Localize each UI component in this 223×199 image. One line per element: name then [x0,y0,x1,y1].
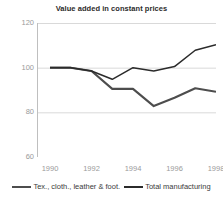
chart-container: Value added in constant prices 608010012… [0,0,223,199]
x-tick-label-1996: 1996 [155,165,195,173]
legend-entry-1[interactable]: Tex., cloth., leather & foot. [12,183,120,191]
x-axis-tick-labels: 19901992199419961998 [37,163,216,175]
legend-line-swatch-icon [124,186,143,188]
y-tick-label-100: 100 [6,64,34,72]
y-tick-label-120: 120 [6,19,34,27]
legend-label-2: Total manufacturing [145,183,210,191]
x-tick-label-1998: 1998 [196,165,223,173]
legend-entry-2[interactable]: Total manufacturing [124,183,210,191]
axis-lines [37,23,38,157]
x-tick-label-1994: 1994 [113,165,153,173]
legend-label-1: Tex., cloth., leather & foot. [33,183,120,191]
series-lines [50,45,216,106]
x-tick-label-1992: 1992 [72,165,112,173]
x-tick-label-1990: 1990 [30,165,70,173]
chart-legend: Tex., cloth., leather & foot.Total manuf… [0,183,223,191]
plot-svg [37,23,216,157]
y-axis-tick-labels: 6080100120 [3,23,34,157]
legend-line-swatch-icon [12,186,31,188]
series-line-2 [50,45,216,80]
y-tick-label-80: 80 [6,108,34,116]
plot-area [37,23,216,157]
y-tick-label-60: 60 [6,153,34,161]
chart-title: Value added in constant prices [0,4,223,13]
series-line-1 [50,68,216,106]
